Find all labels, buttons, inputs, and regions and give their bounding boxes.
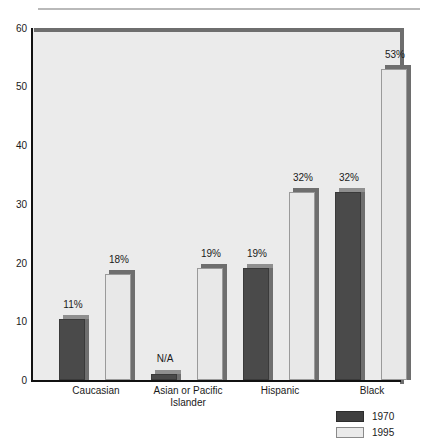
- top-divider-rule: [38, 8, 420, 10]
- legend-swatch-1995: [336, 427, 364, 438]
- bar-label-black-1970: 32%: [326, 172, 372, 183]
- x-category-line1: Black: [317, 385, 427, 397]
- legend-label-1995: 1995: [372, 427, 394, 438]
- x-category-label-black: Black: [317, 385, 427, 397]
- bar-side: [131, 274, 135, 380]
- x-category-line2: Islander: [133, 397, 243, 409]
- bar-body: [289, 192, 315, 380]
- bar-side: [315, 192, 319, 380]
- bar-label-asian-1995: 19%: [188, 248, 234, 259]
- bars-layer: 11% 18% N/A 19%: [31, 28, 400, 380]
- y-tick-label-0: 0: [3, 376, 27, 386]
- bar-caucasian-1970[interactable]: [59, 315, 89, 380]
- bar-side: [223, 268, 227, 380]
- bar-group-caucasian: 11% 18%: [51, 28, 143, 380]
- bar-body: [105, 274, 131, 380]
- bar-side: [407, 69, 411, 380]
- bar-label-caucasian-1995: 18%: [96, 254, 142, 265]
- bar-side: [361, 192, 365, 380]
- legend-label-1970: 1970: [372, 411, 394, 422]
- y-axis: 60 50 40 30 20 10 0: [0, 0, 27, 442]
- bar-label-asian-1970: N/A: [142, 353, 188, 364]
- bar-body: [151, 374, 177, 380]
- y-tick-label-30: 30: [3, 200, 27, 210]
- bar-side: [269, 268, 273, 380]
- bar-asian-1970[interactable]: [151, 370, 181, 380]
- bar-asian-1995[interactable]: [197, 264, 227, 380]
- y-tick-label-20: 20: [3, 259, 27, 269]
- y-tick-label-10: 10: [3, 317, 27, 327]
- bar-hispanic-1995[interactable]: [289, 188, 319, 380]
- bar-label-hispanic-1995: 32%: [280, 172, 326, 183]
- bar-caucasian-1995[interactable]: [105, 270, 135, 380]
- x-axis-line: [31, 380, 401, 382]
- y-tick-label-40: 40: [3, 141, 27, 151]
- bar-side: [85, 319, 89, 380]
- y-tick-label-50: 50: [3, 82, 27, 92]
- bar-black-1970[interactable]: [335, 188, 365, 380]
- bar-group-hispanic: 19% 32%: [235, 28, 327, 380]
- bar-black-1995[interactable]: [381, 65, 411, 380]
- legend-swatch-1970: [336, 411, 364, 422]
- bar-label-hispanic-1970: 19%: [234, 248, 280, 259]
- bar-label-caucasian-1970: 11%: [50, 299, 96, 310]
- bar-label-black-1995: 53%: [372, 49, 418, 60]
- legend-item-1995[interactable]: 1995: [336, 426, 432, 439]
- y-tick-label-60: 60: [3, 24, 27, 34]
- bar-side: [177, 374, 181, 380]
- bar-body: [59, 319, 85, 380]
- legend-item-1970[interactable]: 1970: [336, 410, 432, 423]
- bar-body: [335, 192, 361, 380]
- bar-hispanic-1970[interactable]: [243, 264, 273, 380]
- bar-body: [381, 69, 407, 380]
- bar-group-black: 32% 53%: [327, 28, 419, 380]
- chart-legend: 1970 1995: [336, 410, 432, 442]
- bar-body: [243, 268, 269, 380]
- bar-chart-figure: 60 50 40 30 20 10 0 11% 18%: [0, 0, 434, 442]
- bar-group-asian-pacific-islander: N/A 19%: [143, 28, 235, 380]
- bar-body: [197, 268, 223, 380]
